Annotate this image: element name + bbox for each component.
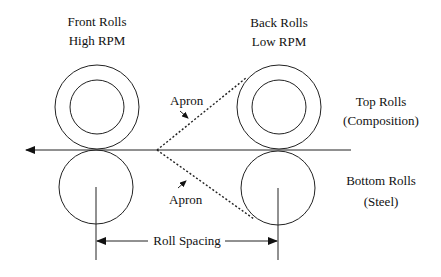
apron-bottom-line: [157, 150, 254, 219]
apron-top-label: Apron: [170, 93, 204, 108]
back-rolls-label: Back Rolls: [250, 15, 307, 30]
back-top-roll: [237, 65, 321, 149]
front-rolls-label: Front Rolls: [68, 14, 127, 29]
apron-top-line: [157, 78, 246, 150]
back-speed-label: Low RPM: [252, 34, 307, 49]
roll-spacing-label: Roll Spacing: [153, 233, 221, 248]
top-rolls-material-label: (Composition): [343, 113, 419, 128]
drafting-rolls-diagram: Front Rolls High RPM Back Rolls Low RPM …: [0, 0, 441, 277]
bottom-rolls-label: Bottom Rolls: [346, 173, 416, 188]
bottom-rolls-material-label: (Steel): [364, 194, 399, 209]
top-rolls-label: Top Rolls: [356, 94, 407, 109]
apron-top-pointer-icon: [180, 111, 188, 118]
apron-bottom-label: Apron: [169, 192, 203, 207]
apron-bottom-pointer-icon: [178, 181, 186, 188]
front-top-roll: [55, 65, 139, 149]
front-speed-label: High RPM: [69, 33, 126, 48]
